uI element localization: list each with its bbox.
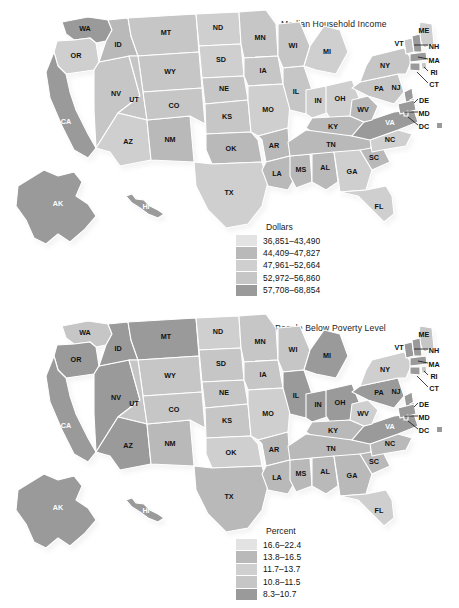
state-ri[interactable] [421,366,427,373]
state-label-mn: MN [254,33,265,42]
state-fl[interactable] [340,490,394,526]
legend-label: 8.3–10.7 [263,589,296,599]
legend-swatch [236,260,257,272]
legend-label: 36,851–43,490 [263,236,320,246]
state-label-ok: OK [226,144,238,153]
legend-label: 11.7–13.7 [263,564,301,574]
state-label-ia: IA [259,66,266,75]
callout-label-md: MD [418,109,429,118]
state-label-wi: WI [289,345,298,354]
state-label-ky: KY [328,426,338,435]
state-label-al: AL [320,163,330,172]
state-label-sc: SC [369,457,379,466]
state-label-wi: WI [289,41,298,50]
state-label-sd: SD [216,359,226,368]
state-label-il: IL [293,87,300,96]
legend-item: 8.3–10.7 [236,588,301,600]
callout-label-de: DE [419,96,429,105]
state-ct[interactable] [410,367,420,375]
legend-swatch [236,235,257,247]
state-label-nv: NV [111,393,121,402]
state-nh[interactable] [412,34,422,52]
state-label-mo: MO [262,409,274,418]
state-label-fl: FL [375,506,384,515]
state-label-al: AL [320,467,330,476]
state-label-ut: UT [129,95,139,104]
state-label-wy: WY [164,371,176,380]
state-label-az: AZ [123,441,133,450]
state-label-ms: MS [296,469,307,478]
state-label-tx: TX [224,492,233,501]
legend-item: 47,961–52,664 [236,259,320,271]
legend-title: Percent [266,526,301,536]
callout-label-nh: NH [429,42,439,51]
state-label-fl: FL [375,202,384,211]
state-ri[interactable] [421,62,427,69]
map-legend-poverty: Percent 16.6–22.4 13.8–16.5 11.7–13.7 10… [236,526,301,600]
state-label-wa: WA [79,24,91,33]
legend-item: 11.7–13.7 [236,563,301,575]
state-label-ak: AK [53,199,64,208]
state-label-az: AZ [123,137,133,146]
map-panel-income: Median Household Income WAORCANVIDMTWYUT… [0,0,459,304]
state-label-nj: NJ [391,387,400,396]
legend-label: 16.6–22.4 [263,540,301,550]
state-label-ks: KS [222,112,232,121]
state-label-nj: NJ [391,83,400,92]
state-label-me: ME [419,26,430,35]
state-label-ks: KS [222,416,232,425]
legend-swatch [236,551,257,563]
legend-label: 44,409–47,827 [263,248,320,258]
legend-swatch [236,272,257,284]
state-label-mi: MI [323,351,331,360]
callout-label-de: DE [419,400,429,409]
state-label-wy: WY [164,67,176,76]
state-label-mo: MO [262,105,274,114]
state-label-wv: WV [357,409,369,418]
state-label-vt: VT [394,39,404,48]
legend-label: 47,961–52,664 [263,260,320,270]
state-label-nm: NM [164,439,175,448]
state-label-mi: MI [323,47,331,56]
state-label-sd: SD [216,55,226,64]
state-label-id: ID [114,40,121,49]
state-label-oh: OH [335,398,346,407]
state-label-me: ME [419,330,430,339]
state-label-wv: WV [357,105,369,114]
callout-label-ri: RI [430,68,437,77]
legend-label: 10.8–11.5 [263,577,301,587]
state-label-nv: NV [111,89,121,98]
state-label-ky: KY [328,122,338,131]
state-label-ut: UT [129,399,139,408]
state-label-tx: TX [224,188,233,197]
legend-item: 36,851–43,490 [236,235,320,247]
state-label-co: CO [169,101,180,110]
state-label-ca: CA [61,421,71,430]
state-label-mt: MT [161,332,172,341]
state-label-ia: IA [259,370,266,379]
legend-swatch [236,589,257,601]
legend-item: 16.6–22.4 [236,539,301,551]
state-fl[interactable] [340,186,394,222]
state-nh[interactable] [412,338,422,356]
legend-label: 52,972–56,860 [263,273,320,283]
state-label-or: OR [71,355,83,364]
legend-label: 13.8–16.5 [263,552,301,562]
callout-label-ri: RI [430,372,437,381]
state-label-nm: NM [164,135,175,144]
state-label-mt: MT [161,28,172,37]
choropleth-map-income: WAORCANVIDMTWYUTAZNMCONDSDNEKSOKTXMNIAMO… [0,0,459,304]
state-label-ak: AK [53,503,64,512]
state-label-pa: PA [374,388,383,397]
state-label-la: LA [272,473,282,482]
state-label-oh: OH [335,94,346,103]
state-label-va: VA [385,422,394,431]
state-label-in: IN [314,400,321,409]
state-ct[interactable] [410,63,420,71]
state-label-in: IN [314,96,321,105]
state-label-ga: GA [347,167,358,176]
callout-label-md: MD [418,413,429,422]
state-label-va: VA [385,118,394,127]
callout-label-dc: DC [419,122,429,131]
callout-label-ct: CT [429,80,439,89]
